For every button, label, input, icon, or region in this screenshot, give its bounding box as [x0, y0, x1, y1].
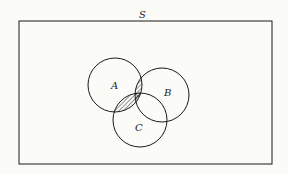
circle-b	[135, 68, 189, 122]
universe-rectangle	[19, 21, 272, 164]
set-label-c: C	[135, 122, 143, 133]
set-label-b: B	[163, 87, 171, 98]
circle-c	[113, 93, 167, 147]
set-label-a: A	[110, 80, 118, 91]
venn-diagram: S A B C	[0, 0, 288, 174]
universe-label: S	[139, 9, 146, 20]
